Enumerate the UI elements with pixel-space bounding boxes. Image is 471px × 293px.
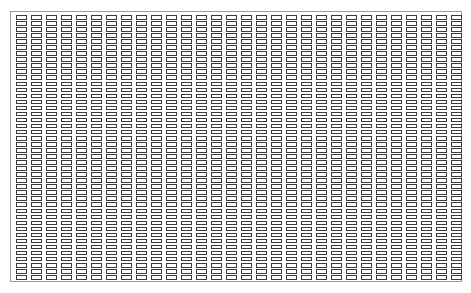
grid-cell: [196, 148, 207, 153]
grid-cell: [391, 15, 402, 20]
grid-cell: [256, 69, 267, 74]
grid-cell: [121, 57, 132, 62]
grid-cell: [271, 88, 282, 93]
grid-cell: [211, 196, 222, 201]
grid-cell: [316, 148, 327, 153]
grid-cell: [271, 124, 282, 129]
grid-cell: [46, 215, 57, 220]
grid-cell: [196, 227, 207, 232]
grid-cell: [226, 178, 237, 183]
grid-cell: [16, 172, 27, 177]
grid-cell: [16, 166, 27, 171]
grid-cell: [121, 136, 132, 141]
grid-cell: [391, 100, 402, 105]
grid-cell: [136, 130, 147, 135]
grid-cell: [301, 45, 312, 50]
grid-cell: [346, 69, 357, 74]
grid-cell: [106, 118, 117, 123]
grid-cell: [391, 184, 402, 189]
grid-cell: [136, 233, 147, 238]
grid-cell: [196, 209, 207, 214]
grid-cell: [451, 190, 462, 195]
grid-cell: [376, 245, 387, 250]
grid-cell: [271, 100, 282, 105]
grid-cell: [361, 27, 372, 32]
grid-cell: [331, 154, 342, 159]
grid-cell: [181, 196, 192, 201]
grid-cell: [406, 148, 417, 153]
grid-cell: [301, 227, 312, 232]
grid-cell: [436, 221, 447, 226]
grid-cell: [16, 190, 27, 195]
grid-cell: [451, 239, 462, 244]
grid-cell: [16, 118, 27, 123]
grid-cell: [241, 148, 252, 153]
grid-cell: [286, 209, 297, 214]
grid-cell: [406, 63, 417, 68]
grid-cell: [421, 202, 432, 207]
grid-cell: [166, 190, 177, 195]
grid-cell: [181, 233, 192, 238]
grid-cell: [406, 51, 417, 56]
grid-cell: [16, 33, 27, 38]
grid-cell: [16, 178, 27, 183]
grid-cell: [16, 39, 27, 44]
grid-cell: [421, 69, 432, 74]
grid-cell: [271, 142, 282, 147]
grid-cell: [196, 263, 207, 268]
grid-cell: [286, 130, 297, 135]
grid-cell: [31, 166, 42, 171]
grid-cell: [91, 15, 102, 20]
grid-cell: [271, 69, 282, 74]
grid-cell: [136, 142, 147, 147]
grid-cell: [421, 63, 432, 68]
grid-cell: [331, 233, 342, 238]
grid-cell: [376, 45, 387, 50]
grid-cell: [181, 215, 192, 220]
grid-cell: [406, 184, 417, 189]
grid-cell: [301, 221, 312, 226]
grid-cell: [361, 184, 372, 189]
grid-cell: [61, 227, 72, 232]
grid-cell: [271, 263, 282, 268]
grid-cell: [331, 245, 342, 250]
grid-cell: [91, 148, 102, 153]
grid-cell: [136, 69, 147, 74]
grid-cell: [211, 166, 222, 171]
grid-cell: [166, 130, 177, 135]
grid-cell: [106, 257, 117, 262]
grid-cell: [256, 82, 267, 87]
grid-cell: [331, 166, 342, 171]
grid-cell: [271, 245, 282, 250]
grid-cell: [241, 221, 252, 226]
grid-cell: [241, 154, 252, 159]
grid-cell: [331, 178, 342, 183]
grid-cell: [241, 21, 252, 26]
grid-cell: [91, 209, 102, 214]
grid-cell: [451, 202, 462, 207]
grid-cell: [121, 233, 132, 238]
grid-cell: [286, 100, 297, 105]
grid-cell: [346, 172, 357, 177]
grid-cell: [226, 221, 237, 226]
grid-cell: [316, 45, 327, 50]
grid-cell: [121, 15, 132, 20]
grid-cell: [346, 130, 357, 135]
grid-cell: [376, 227, 387, 232]
grid-cell: [271, 33, 282, 38]
grid-cell: [421, 88, 432, 93]
grid-cell: [436, 184, 447, 189]
grid-cell: [196, 215, 207, 220]
grid-cell: [331, 63, 342, 68]
grid-cell: [241, 215, 252, 220]
grid-cell: [301, 75, 312, 80]
grid-cell: [76, 221, 87, 226]
grid-cell: [46, 57, 57, 62]
grid-cell: [211, 75, 222, 80]
grid-cell: [46, 178, 57, 183]
grid-cell: [91, 160, 102, 165]
grid-cell: [271, 190, 282, 195]
grid-cell: [226, 239, 237, 244]
grid-cell: [181, 106, 192, 111]
grid-cell: [46, 82, 57, 87]
